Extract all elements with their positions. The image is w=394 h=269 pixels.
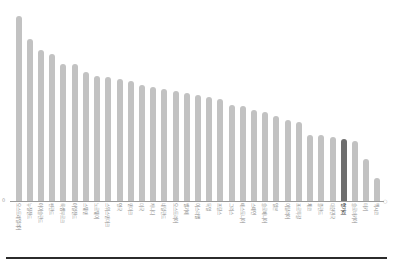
x-axis-tick-label: 노르웨이 [94,203,99,255]
bar-slot[interactable] [127,81,135,201]
bar-slot[interactable] [116,79,124,201]
bar[interactable] [363,159,369,201]
x-axis-tick-label: 캐나다 [150,203,155,255]
x-axis-tick-label: 덴마크 [127,203,132,255]
bar-slot[interactable] [71,64,79,201]
x-axis-tick-label: 슬로베니아 [262,203,267,255]
x-axis-tick-label: 오스트레일리아 [15,203,20,255]
bottom-divider-rule [6,257,387,259]
x-axis-tick-label: 헝가리 [340,203,345,255]
x-axis-tick-label: 포르투갈 [296,203,301,255]
x-axis-tick-label: 미국 [139,203,144,255]
bar[interactable] [105,77,111,201]
axis-end-marker-icon: ○ [383,197,387,205]
bar-slot[interactable] [194,95,202,201]
bar[interactable] [161,89,167,201]
bar-slot[interactable] [37,50,45,201]
bar-slot[interactable] [104,77,112,201]
bar[interactable] [307,135,313,201]
bar[interactable] [128,81,134,201]
x-axis-tick-label: 프랑스 [217,203,222,255]
bar[interactable] [139,85,145,201]
x-axis-tick-label: 뉴질랜드 [26,203,31,255]
bar[interactable] [240,106,246,201]
x-axis-line [10,201,384,202]
x-axis-tick-label: 그리스 [228,203,233,255]
bar[interactable] [83,72,89,201]
bar[interactable] [217,99,223,201]
x-axis-tick-label: 오스트리아 [172,203,177,255]
y-axis-zero-tick-label: 0 [2,196,5,204]
x-axis-tick-label: 이탈리아 [284,203,289,255]
bar-slot[interactable] [284,120,292,201]
bar[interactable] [184,93,190,201]
x-axis-tick-label: 스위스덴마크 [105,203,110,255]
bar[interactable] [330,137,336,201]
bar[interactable] [16,16,22,201]
bar[interactable] [117,79,123,201]
bar-slot[interactable] [306,135,314,201]
bar[interactable] [352,141,358,201]
x-axis-tick-label: 스웨덴 [82,203,87,255]
x-axis-tick-label: 에스토니아 [239,203,244,255]
x-axis-tick-label: 체코 [307,203,312,255]
bar-slot[interactable] [261,112,269,201]
bar[interactable] [150,87,156,201]
bar-slot[interactable] [340,139,348,201]
bar[interactable] [262,112,268,201]
bar[interactable] [318,135,324,201]
bar[interactable] [273,116,279,201]
bar-slot[interactable] [48,54,56,201]
bar[interactable] [72,64,78,201]
bar[interactable] [296,122,302,201]
bar-slot[interactable] [82,72,90,201]
bar-slot[interactable] [149,87,157,201]
x-axis-tick-label: 폴란드 [318,203,323,255]
bar-slot[interactable] [351,141,359,201]
x-axis-tick-label: 슬로바키아 [352,203,357,255]
bar-slot[interactable] [59,64,67,201]
bar-slot[interactable] [362,159,370,201]
bar[interactable] [27,39,33,201]
bar-slot[interactable] [239,106,247,201]
bar[interactable] [49,54,55,201]
x-axis-tick-label: 이스라엘 [195,203,200,255]
x-axis-tick-label: 멕시코 [374,203,379,255]
bar-slot[interactable] [93,76,101,201]
bar-highlighted[interactable] [341,139,347,201]
bar[interactable] [195,95,201,201]
bar-slot[interactable] [205,97,213,201]
x-axis-tick-label: 대한민국 [329,203,334,255]
x-axis-tick-labels: 오스트레일리아뉴질랜드아이슬란드핀란드룩셈부르크아일랜드스웨덴노르웨이스위스덴마… [13,203,383,255]
bar[interactable] [38,50,44,201]
bar-slot[interactable] [373,178,381,201]
x-axis-tick-label: 아이슬란드 [38,203,43,255]
bar[interactable] [173,91,179,201]
bar[interactable] [94,76,100,201]
bar[interactable] [251,110,257,201]
bar-slot[interactable] [160,89,168,201]
x-axis-tick-label: 스페인 [251,203,256,255]
bar[interactable] [60,64,66,201]
bar-slot[interactable] [250,110,258,201]
bar-slot[interactable] [138,85,146,201]
x-axis-tick-label: 벨기에 [183,203,188,255]
x-axis-tick-label: 독일 [206,203,211,255]
bar-slot[interactable] [183,93,191,201]
bar-slot[interactable] [172,91,180,201]
x-axis-tick-label: 룩셈부르크 [60,203,65,255]
bar[interactable] [374,178,380,201]
bar[interactable] [285,120,291,201]
bar-slot[interactable] [228,105,236,202]
bar-slot[interactable] [15,16,23,201]
bar-slot[interactable] [216,99,224,201]
bar-slot[interactable] [295,122,303,201]
bar[interactable] [206,97,212,201]
x-axis-tick-label: 핀란드 [49,203,54,255]
bar[interactable] [229,105,235,202]
bar-slot[interactable] [317,135,325,201]
bar-slot[interactable] [329,137,337,201]
bar-slot[interactable] [272,116,280,201]
bar-slot[interactable] [26,39,34,201]
x-axis-tick-label: 아일랜드 [71,203,76,255]
